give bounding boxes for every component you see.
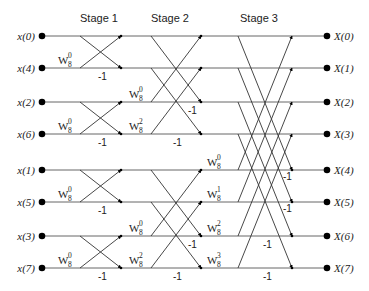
junction-dot	[200, 35, 203, 38]
svg-text:8: 8	[139, 94, 143, 103]
svg-text:8: 8	[68, 60, 72, 69]
output-node	[324, 199, 331, 206]
input-label: x(1)	[16, 164, 35, 177]
io-nodes	[39, 33, 331, 272]
input-node	[39, 33, 46, 40]
output-label: X(0)	[333, 30, 354, 43]
input-node	[39, 265, 46, 272]
svg-text:1: 1	[217, 185, 221, 194]
svg-text:0: 0	[139, 85, 143, 94]
output-node	[324, 33, 331, 40]
io-labels: x(0)x(4)x(2)x(6)x(1)x(5)x(3)x(7)X(0)X(1)…	[16, 30, 354, 275]
svg-text:8: 8	[217, 228, 221, 237]
negation-label: -1	[263, 239, 272, 250]
negation-label: -1	[263, 271, 272, 282]
fft-butterfly-diagram: Stage 1Stage 2Stage 3 x(0)x(4)x(2)x(6)x(…	[0, 0, 369, 291]
twiddle-factor: W82	[207, 219, 221, 237]
svg-text:3: 3	[217, 251, 221, 260]
twiddle-factor: W81	[207, 185, 221, 203]
output-label: X(7)	[333, 262, 354, 275]
svg-text:8: 8	[139, 126, 143, 135]
negation-label: -1	[98, 71, 107, 82]
svg-text:2: 2	[217, 219, 221, 228]
junction-dot	[291, 235, 294, 238]
junction-dot	[200, 67, 203, 70]
svg-text:0: 0	[68, 251, 72, 260]
stage-titles: Stage 1Stage 2Stage 3	[80, 12, 278, 24]
junction-dot	[291, 267, 294, 270]
svg-text:8: 8	[217, 162, 221, 171]
svg-text:8: 8	[217, 260, 221, 269]
junction-dot	[200, 169, 203, 172]
twiddle-factor: W82	[129, 117, 143, 135]
twiddle-factor: W83	[207, 251, 221, 269]
stage-title: Stage 2	[151, 12, 189, 24]
output-label: X(4)	[333, 164, 354, 177]
output-label: X(6)	[333, 230, 354, 243]
input-node	[39, 167, 46, 174]
negation-labels: -1-1-1-1-1-1-1-1-1-1-1-1	[98, 71, 292, 282]
svg-text:0: 0	[68, 185, 72, 194]
twiddle-factor: W80	[58, 251, 72, 269]
output-node	[324, 167, 331, 174]
twiddle-factor: W80	[129, 85, 143, 103]
stage-title: Stage 3	[240, 12, 278, 24]
junction-dot	[200, 133, 203, 136]
output-node	[324, 131, 331, 138]
input-label: x(0)	[16, 30, 35, 43]
negation-label: -1	[98, 271, 107, 282]
svg-text:8: 8	[217, 194, 221, 203]
svg-text:2: 2	[139, 251, 143, 260]
twiddle-factor: W80	[58, 51, 72, 69]
negation-label: -1	[98, 205, 107, 216]
junction-dot	[120, 169, 123, 172]
twiddle-factor: W80	[58, 185, 72, 203]
input-label: x(4)	[16, 62, 35, 75]
output-label: X(2)	[333, 96, 354, 109]
svg-text:8: 8	[139, 260, 143, 269]
output-node	[324, 99, 331, 106]
input-label: x(7)	[16, 262, 35, 275]
negation-label: -1	[188, 105, 197, 116]
twiddle-factor: W80	[58, 117, 72, 135]
junction-dot	[120, 101, 123, 104]
negation-label: -1	[188, 239, 197, 250]
output-label: X(3)	[333, 128, 354, 141]
input-node	[39, 233, 46, 240]
svg-text:0: 0	[217, 153, 221, 162]
negation-label: -1	[98, 137, 107, 148]
svg-text:8: 8	[68, 260, 72, 269]
input-node	[39, 99, 46, 106]
junction-dot	[200, 201, 203, 204]
junction-dot	[120, 267, 123, 270]
negation-label: -1	[173, 271, 182, 282]
stage-title: Stage 1	[80, 12, 118, 24]
junction-dot	[120, 67, 123, 70]
input-node	[39, 199, 46, 206]
input-node	[39, 131, 46, 138]
junction-dot	[200, 267, 203, 270]
output-label: X(5)	[333, 196, 354, 209]
output-label: X(1)	[333, 62, 354, 75]
junction-dot	[200, 235, 203, 238]
junction-dot	[120, 201, 123, 204]
output-node	[324, 233, 331, 240]
svg-text:8: 8	[139, 228, 143, 237]
input-node	[39, 65, 46, 72]
twiddle-factor: W80	[207, 153, 221, 171]
svg-text:0: 0	[68, 117, 72, 126]
twiddle-factor: W82	[129, 251, 143, 269]
svg-text:8: 8	[68, 194, 72, 203]
butterfly-diagonals	[80, 35, 293, 270]
svg-text:8: 8	[68, 126, 72, 135]
input-label: x(2)	[16, 96, 35, 109]
svg-text:0: 0	[139, 219, 143, 228]
horizontal-wires	[42, 36, 327, 268]
negation-label: -1	[283, 171, 292, 182]
svg-text:2: 2	[139, 117, 143, 126]
input-label: x(5)	[16, 196, 35, 209]
twiddle-factor: W80	[129, 219, 143, 237]
junction-dot	[120, 133, 123, 136]
junction-dot	[120, 235, 123, 238]
negation-label: -1	[283, 203, 292, 214]
